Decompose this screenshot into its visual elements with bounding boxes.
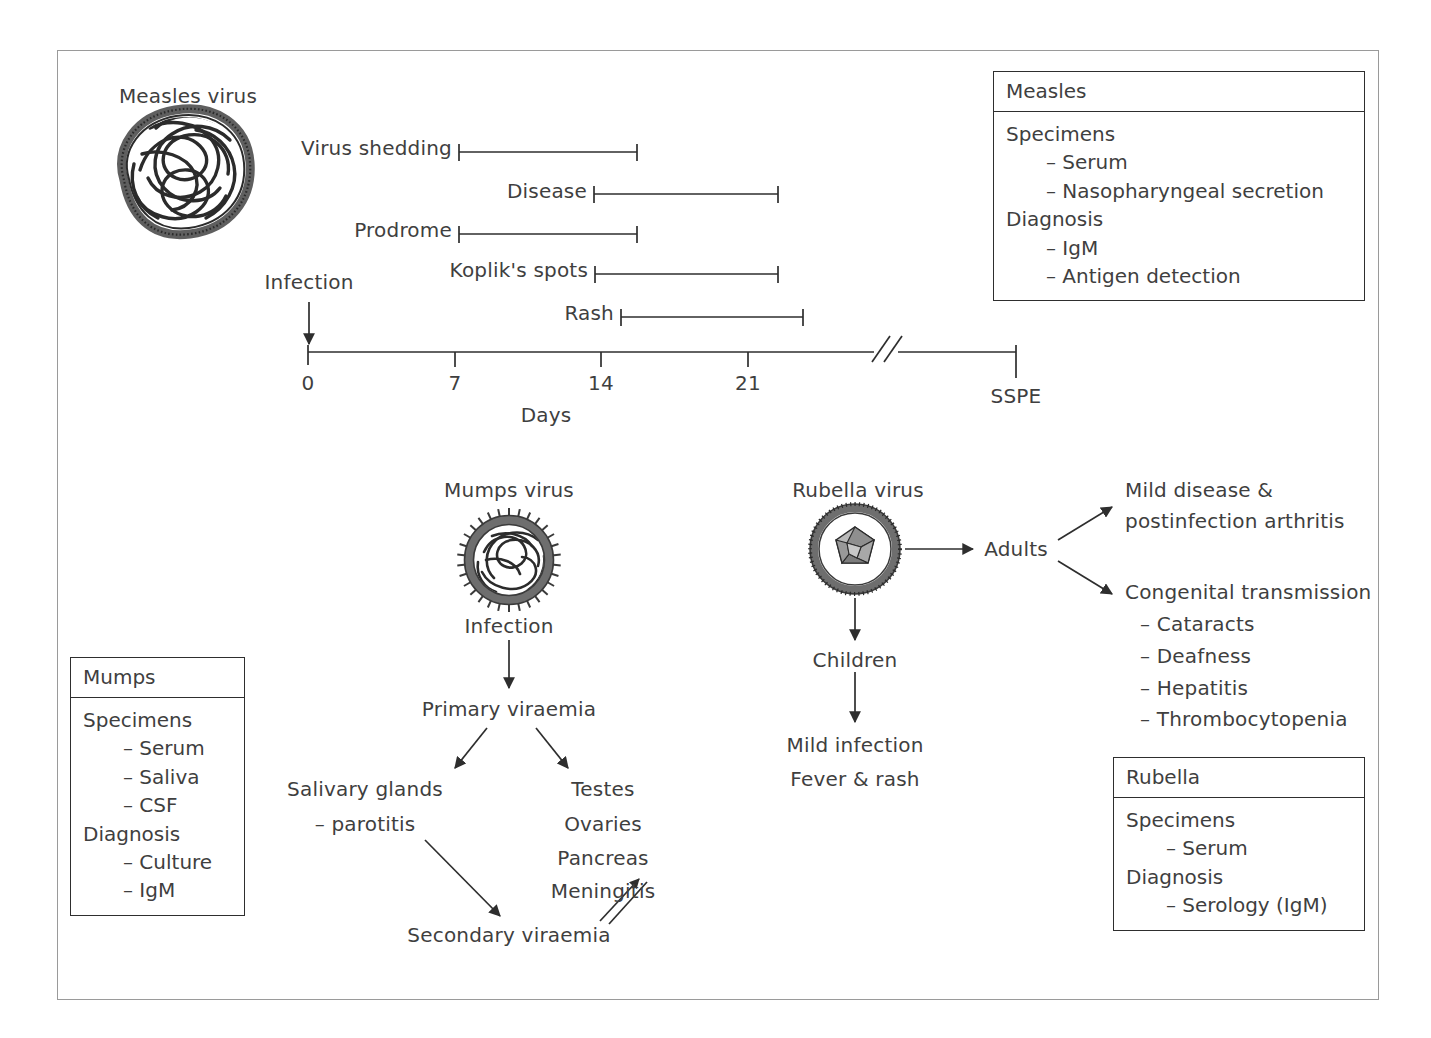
rubella-congenital-item: – Thrombocytopenia bbox=[1140, 707, 1348, 733]
diagram-page: Measles virus Virus shedding Disease Pro… bbox=[0, 0, 1431, 1038]
mumps-parotitis-label: – parotitis bbox=[315, 812, 416, 838]
axis-label-days: Days bbox=[521, 403, 572, 429]
mumps-info-box: Mumps Specimens – Serum – Saliva – CSF D… bbox=[70, 657, 245, 916]
mumps-organ-testes: Testes bbox=[571, 777, 634, 803]
rubella-adult-outcome-line2: postinfection arthritis bbox=[1125, 509, 1345, 535]
timeline-label-virus-shedding: Virus shedding bbox=[301, 136, 452, 162]
timeline-label-prodrome: Prodrome bbox=[354, 218, 452, 244]
rubella-box-line: – Serology (IgM) bbox=[1126, 891, 1352, 919]
axis-tick-21: 21 bbox=[735, 371, 761, 397]
measles-box-title: Measles bbox=[994, 72, 1364, 112]
mumps-box-line: – IgM bbox=[83, 876, 232, 904]
rubella-mild-infection-label: Mild infection bbox=[786, 733, 923, 759]
axis-tick-7: 7 bbox=[449, 371, 462, 397]
rubella-adults-label: Adults bbox=[984, 537, 1048, 563]
rubella-adult-outcome-line1: Mild disease & bbox=[1125, 478, 1273, 504]
axis-tick-14: 14 bbox=[588, 371, 614, 397]
measles-box-line: – Antigen detection bbox=[1006, 262, 1352, 290]
mumps-box-line: Diagnosis bbox=[83, 820, 232, 848]
rubella-box-line: – Serum bbox=[1126, 834, 1352, 862]
axis-tick-0: 0 bbox=[302, 371, 315, 397]
mumps-box-line: – Serum bbox=[83, 734, 232, 762]
rubella-box-line: Specimens bbox=[1126, 806, 1352, 834]
mumps-box-line: Specimens bbox=[83, 706, 232, 734]
measles-box-line: – Serum bbox=[1006, 148, 1352, 176]
mumps-organ-pancreas: Pancreas bbox=[557, 846, 648, 872]
rubella-congenital-title: Congenital transmission bbox=[1125, 580, 1372, 606]
axis-endpoint-sspe: SSPE bbox=[991, 384, 1042, 410]
rubella-fever-rash-label: Fever & rash bbox=[790, 767, 919, 793]
mumps-infection-label: Infection bbox=[464, 614, 553, 640]
mumps-box-title: Mumps bbox=[71, 658, 244, 698]
mumps-box-line: – CSF bbox=[83, 791, 232, 819]
rubella-info-box: Rubella Specimens – Serum Diagnosis – Se… bbox=[1113, 757, 1365, 931]
rubella-box-title: Rubella bbox=[1114, 758, 1364, 798]
rubella-box-line: Diagnosis bbox=[1126, 863, 1352, 891]
mumps-virus-label: Mumps virus bbox=[444, 478, 574, 504]
timeline-label-disease: Disease bbox=[507, 179, 587, 205]
rubella-congenital-item: – Hepatitis bbox=[1140, 676, 1248, 702]
measles-box-line: – IgM bbox=[1006, 234, 1352, 262]
mumps-salivary-glands-label: Salivary glands bbox=[287, 777, 443, 803]
measles-info-box: Measles Specimens – Serum – Nasopharynge… bbox=[993, 71, 1365, 301]
mumps-organ-meningitis: Meningitis bbox=[551, 879, 656, 905]
measles-box-line: Specimens bbox=[1006, 120, 1352, 148]
mumps-box-body: Specimens – Serum – Saliva – CSF Diagnos… bbox=[71, 698, 244, 915]
mumps-organ-ovaries: Ovaries bbox=[564, 812, 642, 838]
rubella-box-body: Specimens – Serum Diagnosis – Serology (… bbox=[1114, 798, 1364, 930]
measles-virus-label: Measles virus bbox=[119, 84, 257, 110]
mumps-primary-viraemia-label: Primary viraemia bbox=[422, 697, 596, 723]
mumps-box-line: – Culture bbox=[83, 848, 232, 876]
rubella-children-label: Children bbox=[813, 648, 898, 674]
mumps-secondary-viraemia-label: Secondary viraemia bbox=[407, 923, 610, 949]
rubella-virus-label: Rubella virus bbox=[792, 478, 924, 504]
measles-infection-label: Infection bbox=[264, 270, 353, 296]
mumps-box-line: – Saliva bbox=[83, 763, 232, 791]
timeline-label-rash: Rash bbox=[564, 301, 614, 327]
measles-box-body: Specimens – Serum – Nasopharyngeal secre… bbox=[994, 112, 1364, 300]
measles-box-line: – Nasopharyngeal secretion bbox=[1006, 177, 1352, 205]
rubella-congenital-item: – Deafness bbox=[1140, 644, 1251, 670]
measles-box-line: Diagnosis bbox=[1006, 205, 1352, 233]
timeline-label-kopliks-spots: Koplik's spots bbox=[450, 258, 588, 284]
rubella-congenital-item: – Cataracts bbox=[1140, 612, 1255, 638]
